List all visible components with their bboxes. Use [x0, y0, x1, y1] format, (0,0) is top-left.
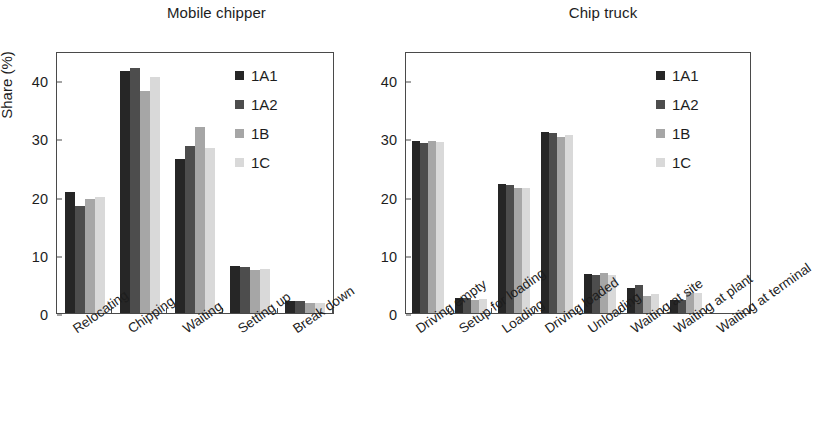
- bar: [120, 71, 130, 313]
- chart-panel-chip-truck: Chip truck 1A11A21B1C 010203040 Driving …: [395, 0, 801, 437]
- legend-item: 1B: [656, 119, 699, 148]
- legend-swatch-icon: [656, 71, 665, 80]
- bar: [295, 301, 305, 313]
- chart-title-right: Chip truck: [395, 4, 801, 21]
- legend-label: 1B: [672, 126, 690, 141]
- legend-label: 1C: [251, 155, 270, 170]
- y-axis-tick-label: 20: [381, 191, 406, 207]
- y-axis-tick-mark: [406, 256, 411, 257]
- chart-panel-mobile-chipper: Mobile chipper Share (%) 1A11A21B1C 0102…: [0, 0, 395, 437]
- bar: [175, 159, 185, 313]
- y-axis-tick-label: 40: [381, 74, 406, 90]
- y-axis-tick-mark: [57, 256, 62, 257]
- bar: [150, 77, 160, 313]
- legend-label: 1A2: [672, 97, 699, 112]
- bar: [65, 192, 75, 313]
- bar: [565, 135, 573, 313]
- y-axis-tick-mark: [57, 140, 62, 141]
- y-axis-tick-mark: [406, 82, 411, 83]
- y-axis-tick-mark: [406, 198, 411, 199]
- y-axis-label: Share (%): [0, 25, 15, 145]
- legend-item: 1A1: [656, 61, 699, 90]
- legend-item: 1A2: [656, 90, 699, 119]
- y-axis-tick-label: 10: [32, 249, 57, 265]
- bar: [549, 133, 557, 313]
- bar-group: [406, 53, 449, 313]
- bar: [130, 68, 140, 313]
- legend-swatch-icon: [656, 100, 665, 109]
- bar-group: [449, 53, 492, 313]
- legend-item: 1A2: [235, 90, 278, 119]
- legend-left: 1A11A21B1C: [235, 61, 278, 177]
- legend-swatch-icon: [656, 129, 665, 138]
- y-axis-tick-label: 0: [389, 307, 406, 323]
- bar: [140, 91, 150, 313]
- plot-area-right: 1A11A21B1C 010203040: [405, 52, 751, 314]
- bar: [428, 141, 436, 313]
- y-axis-tick-mark: [57, 82, 62, 83]
- legend-swatch-icon: [656, 158, 665, 167]
- legend-swatch-icon: [235, 129, 244, 138]
- legend-label: 1A1: [251, 68, 278, 83]
- legend-item: 1C: [656, 148, 699, 177]
- bar-group: [57, 53, 112, 313]
- y-axis-tick-label: 10: [381, 249, 406, 265]
- bar: [412, 141, 420, 313]
- bar: [420, 143, 428, 313]
- y-axis-tick-label: 0: [40, 307, 57, 323]
- y-axis-tick-mark: [406, 140, 411, 141]
- legend-label: 1B: [251, 126, 269, 141]
- bar: [75, 206, 85, 313]
- y-axis-tick-label: 30: [32, 132, 57, 148]
- bar: [436, 142, 444, 313]
- legend-item: 1A1: [235, 61, 278, 90]
- bar: [240, 267, 250, 313]
- y-axis-tick-mark: [57, 315, 62, 316]
- legend-label: 1C: [672, 155, 691, 170]
- y-axis-tick-label: 30: [381, 132, 406, 148]
- legend-swatch-icon: [235, 158, 244, 167]
- legend-swatch-icon: [235, 71, 244, 80]
- legend-swatch-icon: [235, 100, 244, 109]
- legend-item: 1B: [235, 119, 278, 148]
- y-axis-tick-mark: [57, 198, 62, 199]
- bar: [195, 127, 205, 313]
- bar-group: [278, 53, 333, 313]
- bar: [85, 199, 95, 313]
- legend-label: 1A1: [672, 68, 699, 83]
- bars-left: [57, 53, 333, 313]
- bar-group: [167, 53, 222, 313]
- bar: [557, 137, 565, 313]
- bar-group: [112, 53, 167, 313]
- bar: [185, 146, 195, 313]
- y-axis-tick-label: 40: [32, 74, 57, 90]
- plot-area-left: 1A11A21B1C 010203040: [56, 52, 334, 314]
- chart-title-left: Mobile chipper: [0, 4, 395, 21]
- y-axis-tick-mark: [406, 315, 411, 316]
- legend-item: 1C: [235, 148, 278, 177]
- bar: [95, 197, 105, 313]
- bar-group: [578, 53, 621, 313]
- bar: [205, 148, 215, 313]
- y-axis-tick-label: 20: [32, 191, 57, 207]
- bar: [541, 132, 549, 313]
- legend-right: 1A11A21B1C: [656, 61, 699, 177]
- legend-label: 1A2: [251, 97, 278, 112]
- bar: [230, 266, 240, 313]
